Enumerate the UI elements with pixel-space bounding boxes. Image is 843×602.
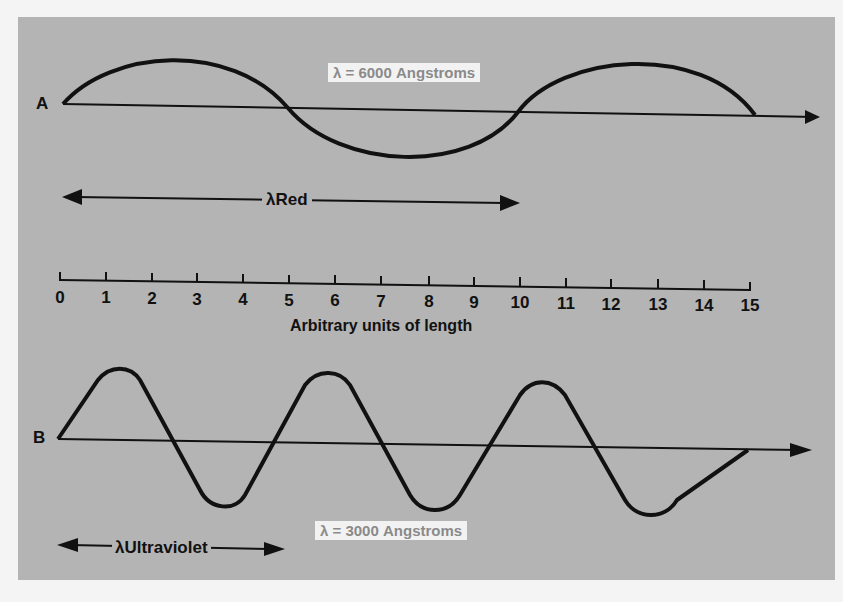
scale-tick: 15 bbox=[741, 296, 760, 316]
wave-b-curve bbox=[58, 369, 748, 515]
scale-tick: 0 bbox=[55, 288, 64, 308]
scale-tick: 7 bbox=[376, 292, 385, 312]
red-span-label: λRed bbox=[262, 190, 312, 210]
wave-b-wavelength-label: λ = 3000 Angstroms bbox=[315, 521, 467, 540]
wave-a-wavelength-label: λ = 6000 Angstroms bbox=[328, 63, 480, 82]
scale-tick: 13 bbox=[649, 295, 668, 315]
scale-tick: 4 bbox=[238, 290, 247, 310]
wave-b-axis-arrow bbox=[58, 439, 800, 450]
wave-b-label: B bbox=[33, 428, 45, 448]
scale-tick: 14 bbox=[695, 296, 714, 316]
scale-tick: 2 bbox=[147, 289, 156, 309]
scale-tick: 11 bbox=[557, 294, 575, 314]
uv-span-label: λUltraviolet bbox=[112, 538, 211, 558]
wave-a-label: A bbox=[36, 94, 48, 114]
scale-tick: 10 bbox=[511, 293, 530, 313]
scale-tick: 3 bbox=[192, 290, 201, 310]
scale-tick: 1 bbox=[101, 288, 110, 308]
wave-a-axis-arrow bbox=[63, 104, 815, 117]
scale-tick: 6 bbox=[330, 291, 339, 311]
waves-graphic bbox=[0, 0, 843, 602]
scale-tick: 5 bbox=[284, 291, 293, 311]
scale-tick: 12 bbox=[602, 295, 621, 315]
scale-tick: 8 bbox=[424, 292, 433, 312]
scale-title: Arbitrary units of length bbox=[290, 317, 472, 335]
scale-line bbox=[60, 280, 750, 290]
scale-tick: 9 bbox=[469, 293, 478, 313]
